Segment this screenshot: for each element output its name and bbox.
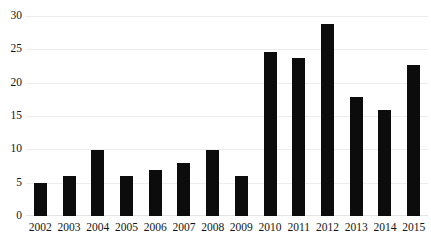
y-tick-label: 20	[0, 77, 22, 89]
bar-2009	[235, 176, 248, 216]
bar-2003	[63, 176, 76, 216]
bar-2007	[177, 163, 190, 216]
bar-2002	[34, 183, 47, 216]
bar-2004	[91, 150, 104, 216]
bar-2012	[321, 24, 334, 216]
x-axis-labels: 2002200320042005200620072008200920102011…	[26, 222, 428, 240]
bar-chart: 30 25 20 15 10 5 0 200220032004200520062…	[0, 0, 431, 252]
bar-2015	[407, 65, 420, 216]
bar-2011	[292, 58, 305, 216]
y-tick-label: 10	[0, 144, 22, 156]
bar-2010	[264, 52, 277, 217]
bar-2008	[206, 150, 219, 216]
bar-2013	[350, 97, 363, 216]
bar-2014	[378, 110, 391, 216]
y-tick-label: 30	[0, 10, 22, 22]
bars-layer	[26, 16, 428, 216]
y-tick-label: 25	[0, 44, 22, 56]
y-tick-label: 5	[0, 177, 22, 189]
y-tick-label: 15	[0, 110, 22, 122]
y-axis-labels: 30 25 20 15 10 5 0	[0, 16, 22, 216]
bar-2006	[149, 170, 162, 216]
y-tick-label: 0	[0, 210, 22, 222]
bar-2005	[120, 176, 133, 216]
x-tick-label: 2015	[397, 222, 431, 234]
